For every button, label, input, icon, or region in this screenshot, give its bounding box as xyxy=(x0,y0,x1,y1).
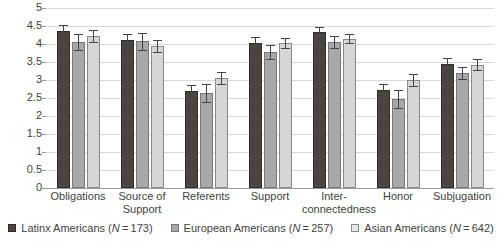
y-axis-tick-label: 3.5 xyxy=(6,56,42,67)
error-bar-cap-lower xyxy=(187,97,196,98)
bar-rect xyxy=(377,90,390,188)
x-axis-tick-label-line: Referents xyxy=(174,190,238,203)
gridline xyxy=(46,188,494,189)
error-bar-cap-lower xyxy=(409,86,418,87)
bar-group xyxy=(366,8,430,188)
error-bar-line xyxy=(270,45,271,59)
error-bar-line xyxy=(383,84,384,96)
error-bar-line xyxy=(462,67,463,79)
bar-group xyxy=(46,8,110,188)
bar[interactable] xyxy=(136,8,149,188)
error-bar-cap-lower xyxy=(202,102,211,103)
y-axis-tick-mark xyxy=(42,188,46,189)
error-bar-cap-lower xyxy=(74,50,83,51)
bar-group xyxy=(302,8,366,188)
legend-item[interactable]: European Americans (N = 257) xyxy=(171,222,334,234)
error-bar-line xyxy=(191,85,192,97)
x-axis-tick-label: Inter-connectedness xyxy=(302,190,366,216)
x-axis-tick-label-line: Inter- xyxy=(302,190,366,203)
y-axis-tick-label: 5 xyxy=(6,2,42,13)
legend-swatch-icon xyxy=(351,224,359,232)
error-bar-cap-upper xyxy=(281,38,290,39)
legend-item[interactable]: Asian Americans (N = 642) xyxy=(351,222,493,234)
bar-rect xyxy=(72,42,85,188)
error-bar-cap-upper xyxy=(315,27,324,28)
y-axis-tick-label: 1 xyxy=(6,146,42,157)
error-bar-cap-upper xyxy=(251,37,260,38)
bar-rect xyxy=(471,65,484,188)
x-axis-tick-label-line: connectedness xyxy=(302,203,366,216)
error-bar-cap-upper xyxy=(379,84,388,85)
bar[interactable] xyxy=(249,8,262,188)
bar-rect xyxy=(313,32,326,188)
error-bar-cap-upper xyxy=(443,58,452,59)
error-bar-line xyxy=(63,25,64,37)
error-bar-cap-upper xyxy=(330,36,339,37)
error-bar-cap-lower xyxy=(217,84,226,85)
legend-label: European Americans (N = 257) xyxy=(184,222,334,234)
bar-group xyxy=(238,8,302,188)
bar-rect xyxy=(151,46,164,188)
bar[interactable] xyxy=(87,8,100,188)
error-bar-cap-lower xyxy=(315,38,324,39)
bar-rect xyxy=(407,80,420,188)
bar[interactable] xyxy=(377,8,390,188)
x-axis-tick-label: Source ofSupport xyxy=(110,190,174,216)
bar[interactable] xyxy=(151,8,164,188)
error-bar-cap-lower xyxy=(138,50,147,51)
y-axis-tick-label: 0 xyxy=(6,182,42,193)
x-axis-tick-label-line: Source of xyxy=(110,190,174,203)
bar[interactable] xyxy=(264,8,277,188)
bar[interactable] xyxy=(121,8,134,188)
error-bar-cap-lower xyxy=(89,42,98,43)
bar-rect xyxy=(121,40,134,188)
bar-rect xyxy=(200,93,213,188)
bar-rect xyxy=(136,41,149,188)
error-bar-cap-upper xyxy=(138,33,147,34)
x-axis-tick-label: Obligations xyxy=(46,190,110,203)
bar[interactable] xyxy=(392,8,405,188)
grouped-bar-chart: 00.511.522.533.544.55 ObligationsSource … xyxy=(0,0,502,243)
error-bar-line xyxy=(477,59,478,70)
y-axis-tick-label: 3 xyxy=(6,74,42,85)
bar[interactable] xyxy=(200,8,213,188)
error-bar-cap-upper xyxy=(187,85,196,86)
error-bar-cap-upper xyxy=(394,90,403,91)
bar[interactable] xyxy=(215,8,228,188)
bar[interactable] xyxy=(57,8,70,188)
bar[interactable] xyxy=(185,8,198,188)
bar[interactable] xyxy=(441,8,454,188)
bar-group xyxy=(430,8,494,188)
bar-rect xyxy=(343,39,356,188)
bar[interactable] xyxy=(343,8,356,188)
bar[interactable] xyxy=(456,8,469,188)
error-bar-cap-upper xyxy=(153,40,162,41)
error-bar-line xyxy=(78,34,79,50)
x-axis-tick-label: Referents xyxy=(174,190,238,203)
legend-label: Asian Americans (N = 642) xyxy=(364,222,493,234)
error-bar-cap-upper xyxy=(59,25,68,26)
bar-rect xyxy=(57,31,70,188)
bar[interactable] xyxy=(313,8,326,188)
bar-rect xyxy=(185,91,198,188)
error-bar-line xyxy=(398,90,399,108)
bar-rect xyxy=(264,52,277,188)
error-bar-cap-lower xyxy=(458,79,467,80)
error-bar-cap-upper xyxy=(345,34,354,35)
y-axis: 00.511.522.533.544.55 xyxy=(0,8,42,188)
bar[interactable] xyxy=(328,8,341,188)
bar[interactable] xyxy=(279,8,292,188)
legend-swatch-icon xyxy=(8,224,16,232)
error-bar-cap-lower xyxy=(266,59,275,60)
error-bar-cap-lower xyxy=(473,70,482,71)
bar[interactable] xyxy=(407,8,420,188)
error-bar-line xyxy=(206,84,207,102)
legend-label: Latinx Americans (N = 173) xyxy=(21,222,152,234)
x-axis-tick-label-line: Support xyxy=(238,190,302,203)
bar[interactable] xyxy=(471,8,484,188)
legend-item[interactable]: Latinx Americans (N = 173) xyxy=(8,222,152,234)
error-bar-cap-upper xyxy=(123,34,132,35)
error-bar-line xyxy=(157,40,158,52)
error-bar-line xyxy=(319,27,320,38)
bar[interactable] xyxy=(72,8,85,188)
